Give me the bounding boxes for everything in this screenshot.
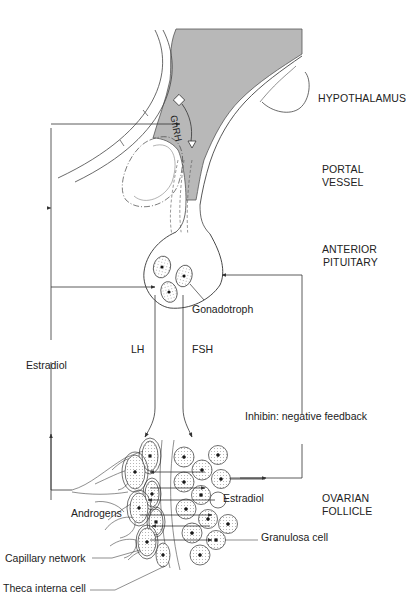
theca-cells xyxy=(122,438,170,567)
label-inhibin: Inhibin: negative feedback xyxy=(245,410,367,423)
estradiol-feedback-loop xyxy=(51,124,180,500)
granulosa-cells xyxy=(174,446,238,566)
label-lh: LH xyxy=(131,343,144,356)
label-portal: PORTAL xyxy=(322,163,364,176)
label-fsh: FSH xyxy=(192,343,213,356)
label-vessel: VESSEL xyxy=(322,176,363,189)
label-ovarian: OVARIAN xyxy=(322,492,369,505)
label-follicle: FOLLICLE xyxy=(322,505,372,518)
label-hypothalamus: HYPOTHALAMUS xyxy=(318,92,406,105)
label-gonadotroph: Gonadotroph xyxy=(192,303,253,316)
label-anterior: ANTERIOR xyxy=(322,243,377,256)
label-pituitary: PITUITARY xyxy=(323,256,378,269)
label-androgens: Androgens xyxy=(71,507,122,520)
label-theca: Theca interna cell xyxy=(3,582,86,595)
lh-fsh-lines xyxy=(145,295,192,437)
label-estradiol-follicle: Estradiol xyxy=(223,492,264,505)
label-estradiol-feedback: Estradiol xyxy=(26,359,67,372)
label-granulosa: Granulosa cell xyxy=(261,531,328,544)
label-capillary: Capillary network xyxy=(5,552,86,565)
brain-wall xyxy=(58,30,172,182)
